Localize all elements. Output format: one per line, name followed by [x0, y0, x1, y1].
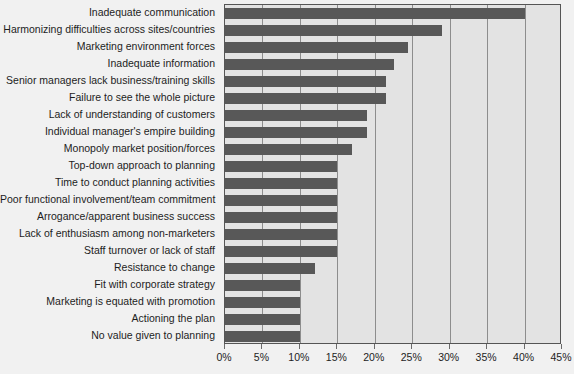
category-label: Poor functional involvement/team commitm…: [0, 191, 220, 208]
category-label: Inadequate information: [0, 55, 220, 72]
bar: [225, 229, 337, 240]
bar-row: [225, 39, 560, 56]
bar: [225, 8, 525, 19]
bar-row: [225, 5, 560, 22]
category-label: Marketing is equated with promotion: [0, 293, 220, 310]
bar-row: [225, 260, 560, 277]
x-tick-mark: [524, 344, 525, 349]
category-axis-labels: Inadequate communicationHarmonizing diff…: [0, 4, 220, 344]
bar-chart: Inadequate communicationHarmonizing diff…: [0, 0, 574, 374]
bar: [225, 280, 300, 291]
x-tick-label: 30%: [438, 351, 459, 363]
category-label: Lack of understanding of customers: [0, 106, 220, 123]
category-label: Resistance to change: [0, 259, 220, 276]
bar-row: [225, 73, 560, 90]
category-label: Top-down approach to planning: [0, 157, 220, 174]
bar-row: [225, 158, 560, 175]
category-label: Senior managers lack business/training s…: [0, 72, 220, 89]
x-tick-mark: [486, 344, 487, 349]
x-tick-label: 25%: [401, 351, 422, 363]
bar-row: [225, 294, 560, 311]
x-tick-mark: [299, 344, 300, 349]
bar: [225, 93, 386, 104]
bar: [225, 59, 394, 70]
category-label: Staff turnover or lack of staff: [0, 242, 220, 259]
bar-row: [225, 90, 560, 107]
bar: [225, 246, 337, 257]
category-label: Harmonizing difficulties across sites/co…: [0, 21, 220, 38]
bar: [225, 331, 300, 342]
bar-row: [225, 56, 560, 73]
category-label: Fit with corporate strategy: [0, 276, 220, 293]
bar: [225, 212, 337, 223]
bar-row: [225, 209, 560, 226]
bar-row: [225, 311, 560, 328]
bar: [225, 297, 300, 308]
bar-row: [225, 226, 560, 243]
x-tick-mark: [411, 344, 412, 349]
bar: [225, 127, 367, 138]
x-tick-mark: [374, 344, 375, 349]
bar: [225, 25, 442, 36]
category-label: Time to conduct planning activities: [0, 174, 220, 191]
x-tick-label: 35%: [476, 351, 497, 363]
category-label: Monopoly market position/forces: [0, 140, 220, 157]
x-tick-label: 45%: [550, 351, 571, 363]
x-tick-label: 15%: [326, 351, 347, 363]
plot-area: [224, 4, 561, 344]
bar-series: [225, 5, 560, 343]
bar-row: [225, 277, 560, 294]
category-label: Arrogance/apparent business success: [0, 208, 220, 225]
x-tick-mark: [449, 344, 450, 349]
bar: [225, 144, 352, 155]
bar: [225, 42, 408, 53]
x-tick-label: 5%: [254, 351, 269, 363]
bar: [225, 110, 367, 121]
bar-row: [225, 22, 560, 39]
category-label: Lack of enthusiasm among non-marketers: [0, 225, 220, 242]
bar-row: [225, 107, 560, 124]
bar: [225, 161, 337, 172]
category-label: Failure to see the whole picture: [0, 89, 220, 106]
bar: [225, 263, 315, 274]
bar-row: [225, 141, 560, 158]
x-tick-mark: [261, 344, 262, 349]
x-tick-label: 0%: [216, 351, 231, 363]
x-tick-mark: [561, 344, 562, 349]
category-label: No value given to planning: [0, 327, 220, 344]
bar: [225, 314, 300, 325]
category-label: Marketing environment forces: [0, 38, 220, 55]
bar: [225, 195, 337, 206]
bar-row: [225, 192, 560, 209]
category-label: Actioning the plan: [0, 310, 220, 327]
x-tick-label: 20%: [363, 351, 384, 363]
x-axis: 0%5%10%15%20%25%30%35%40%45%: [224, 344, 561, 370]
x-tick-mark: [336, 344, 337, 349]
bar-row: [225, 175, 560, 192]
x-tick-label: 10%: [288, 351, 309, 363]
bar-row: [225, 328, 560, 345]
bar-row: [225, 243, 560, 260]
category-label: Individual manager's empire building: [0, 123, 220, 140]
bar-row: [225, 124, 560, 141]
bar: [225, 178, 337, 189]
category-label: Inadequate communication: [0, 4, 220, 21]
x-tick-label: 40%: [513, 351, 534, 363]
x-tick-mark: [224, 344, 225, 349]
bar: [225, 76, 386, 87]
